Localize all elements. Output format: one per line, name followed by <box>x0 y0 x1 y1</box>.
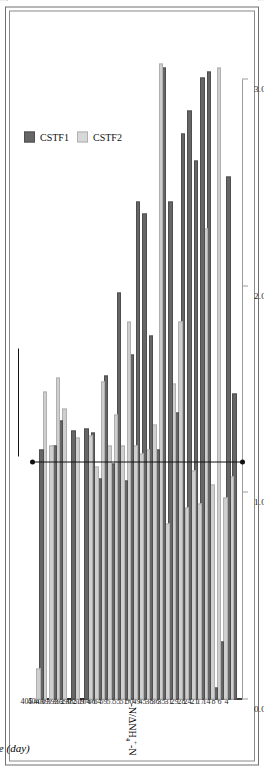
stoichiometric-reference-line <box>32 461 242 462</box>
plot-area: 0.01.02.03.0 468141721242829313536384549… <box>36 79 242 699</box>
reference-line-marker-top <box>30 459 35 464</box>
value-tick-label: 3.0 <box>254 83 264 93</box>
value-tick <box>242 491 248 492</box>
bar-cstf2-405 <box>36 668 41 699</box>
bar-cstf1-385 <box>84 428 89 699</box>
figure-page: CSTF1 CSTF2 Stoichiometric value: 1.146 … <box>0 0 264 771</box>
value-tick-label: 1.0 <box>254 496 264 506</box>
bar-cstf2-400 <box>49 445 54 699</box>
chart-canvas: CSTF1 CSTF2 Stoichiometric value: 1.146 … <box>0 0 264 771</box>
value-tick <box>242 78 248 79</box>
annotation-leader-line <box>18 348 19 456</box>
value-tick <box>242 285 248 286</box>
legend-swatch-cstf1 <box>24 131 35 142</box>
reference-line-marker-bottom <box>240 459 245 464</box>
value-tick <box>242 698 248 699</box>
bar-cstf2-14 <box>217 67 222 699</box>
category-axis-title: Time (day) <box>0 741 30 753</box>
category-tick-label: 405 <box>15 697 39 706</box>
bar-cstf1-405 <box>39 449 44 699</box>
rotated-figure-wrapper: CSTF1 CSTF2 Stoichiometric value: 1.146 … <box>0 0 264 771</box>
value-tick-label: 2.0 <box>254 290 264 300</box>
value-axis-line <box>242 79 243 699</box>
value-tick-label: 0.0 <box>254 703 264 713</box>
bar-cstf1-392 <box>71 430 76 699</box>
